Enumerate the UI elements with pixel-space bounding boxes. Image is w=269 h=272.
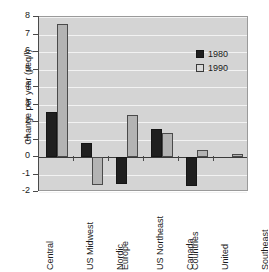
x-axis-tick [213, 156, 214, 161]
y-axis-tick [33, 69, 38, 70]
bar-1990-canada-southeast [197, 150, 208, 157]
y-axis-tick-label: 2 [0, 116, 30, 125]
bar-1980-nordic-countries [116, 157, 127, 184]
bar-1990-united-kingdom [232, 154, 243, 158]
y-axis-tick [33, 156, 38, 157]
gridline [39, 87, 247, 88]
y-axis-line [38, 16, 39, 191]
legend-label-1980: 1980 [208, 49, 228, 59]
y-axis-tick [33, 34, 38, 35]
legend: 1980 1990 [196, 47, 228, 75]
y-axis-tick [33, 51, 38, 52]
y-axis-tick [33, 104, 38, 105]
gridline [39, 17, 247, 18]
y-axis-tick [33, 191, 38, 192]
x-axis-tick [108, 156, 109, 161]
y-axis-tick-label: -2 [0, 186, 30, 195]
gridline [39, 140, 247, 141]
y-axis-tick-label: 7 [0, 29, 30, 38]
x-axis-label-line: US Midwest [85, 196, 95, 270]
x-axis-label-us-northeast: US Northeast [141, 196, 181, 272]
x-axis-label-line: US Northeast [155, 196, 165, 270]
bar-1980-us-northeast [151, 129, 162, 157]
x-axis-tick [73, 156, 74, 161]
x-axis-label-nordic-countries: NordicCountries [106, 196, 146, 272]
y-axis-tick [33, 139, 38, 140]
y-axis-tick-label: 6 [0, 46, 30, 55]
x-axis-tick [178, 156, 179, 161]
bar-1990-central-europe [57, 24, 68, 157]
y-axis-tick-label: 5 [0, 64, 30, 73]
y-axis-tick [33, 121, 38, 122]
x-axis-label-line: Nordic [115, 196, 125, 270]
x-axis-label-united-kingdom: UnitedKingdom [211, 196, 251, 272]
bar-1990-us-midwest [92, 157, 103, 185]
bar-1980-central-europe [46, 112, 57, 158]
x-axis-label-line: Southeast [260, 196, 269, 270]
y-axis-tick-label: 4 [0, 81, 30, 90]
gridline [39, 35, 247, 36]
x-axis-label-canada-southeast: CanadaSoutheast [176, 196, 216, 272]
gridline [39, 122, 247, 123]
x-axis-label-line: Central [45, 196, 55, 270]
plot-area [38, 16, 248, 191]
legend-swatch-1980-icon [196, 50, 204, 58]
y-axis-tick-label: 3 [0, 99, 30, 108]
legend-label-1990: 1990 [208, 63, 228, 73]
gridline [39, 175, 247, 176]
y-axis-tick-label: 0 [0, 151, 30, 160]
y-axis-tick-label: 8 [0, 11, 30, 20]
y-axis-tick [33, 174, 38, 175]
y-axis-tick [33, 86, 38, 87]
bar-1990-us-northeast [162, 133, 173, 158]
legend-item-1990: 1990 [196, 61, 228, 75]
y-axis-tick-label: 1 [0, 134, 30, 143]
x-axis-label-line: Canada [185, 196, 195, 270]
legend-swatch-1990-icon [196, 64, 204, 72]
y-axis-tick [33, 16, 38, 17]
legend-item-1980: 1980 [196, 47, 228, 61]
y-axis-tick-label: -1 [0, 169, 30, 178]
x-axis-tick [143, 156, 144, 161]
x-axis-label-central-europe: CentralEurope [36, 196, 76, 272]
bar-chart: Change per year (µeq/l) 876543210-1-2 Ce… [0, 0, 268, 272]
bar-1990-nordic-countries [127, 115, 138, 157]
x-axis-label-line: United [220, 196, 230, 270]
bar-1980-us-midwest [81, 143, 92, 157]
gridline [39, 192, 247, 193]
gridline [39, 105, 247, 106]
bar-1980-canada-southeast [186, 157, 197, 186]
x-axis-label-us-midwest: US Midwest [71, 196, 111, 272]
